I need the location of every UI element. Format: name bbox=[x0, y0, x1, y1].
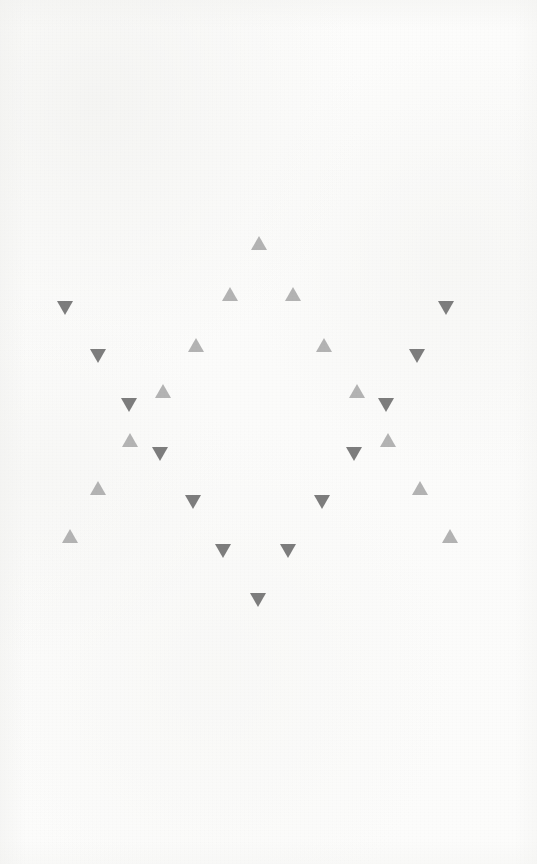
triangle-up-marker bbox=[316, 338, 332, 352]
triangle-up-marker bbox=[349, 384, 365, 398]
paper-grain-overlay bbox=[0, 0, 537, 864]
triangle-down-marker bbox=[121, 398, 137, 412]
triangle-up-marker bbox=[251, 236, 267, 250]
triangle-down-marker bbox=[409, 349, 425, 363]
triangle-down-marker bbox=[152, 447, 168, 461]
triangle-down-marker bbox=[438, 301, 454, 315]
triangle-up-marker bbox=[285, 287, 301, 301]
triangle-down-marker bbox=[215, 544, 231, 558]
triangle-down-marker bbox=[378, 398, 394, 412]
triangle-up-marker bbox=[188, 338, 204, 352]
triangle-up-marker bbox=[442, 529, 458, 543]
triangle-up-marker bbox=[155, 384, 171, 398]
triangle-down-marker bbox=[185, 495, 201, 509]
triangle-up-marker bbox=[90, 481, 106, 495]
triangle-down-marker bbox=[57, 301, 73, 315]
triangle-up-marker bbox=[380, 433, 396, 447]
triangle-down-marker bbox=[314, 495, 330, 509]
triangle-down-marker bbox=[90, 349, 106, 363]
triangle-down-marker bbox=[346, 447, 362, 461]
triangle-down-marker bbox=[280, 544, 296, 558]
triangle-up-marker bbox=[412, 481, 428, 495]
triangle-up-marker bbox=[222, 287, 238, 301]
page-edge-shading bbox=[0, 0, 537, 864]
triangle-down-marker bbox=[250, 593, 266, 607]
pattern-canvas bbox=[0, 0, 537, 864]
triangle-up-marker bbox=[62, 529, 78, 543]
triangle-up-marker bbox=[122, 433, 138, 447]
